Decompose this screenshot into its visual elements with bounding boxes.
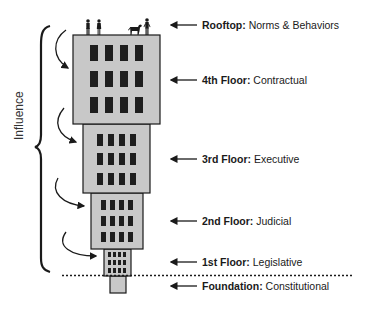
level-name: Foundation: [202, 280, 263, 292]
curved-arrow-icon [56, 178, 84, 206]
level-name: 3rd Floor: [202, 153, 251, 165]
level-desc: Executive [254, 153, 300, 165]
building-diagram [0, 0, 369, 311]
level-label-4th-floor: 4th Floor: Contractual [202, 74, 307, 86]
level-desc: Norms & Behaviors [249, 19, 339, 31]
foundation-block [110, 276, 126, 293]
curved-arrow-icon [56, 30, 68, 68]
dog-icon [128, 25, 142, 36]
person-icon [86, 19, 90, 35]
influence-brace [35, 26, 50, 272]
rooftop-figures [86, 18, 150, 35]
floor-2-judicial [91, 193, 143, 249]
floor-4-contractual [73, 35, 160, 124]
person-icon [97, 19, 101, 35]
floor-3-executive [83, 124, 150, 193]
level-desc: Contractual [253, 74, 307, 86]
level-label-foundation: Foundation: Constitutional [202, 280, 329, 292]
level-label-3rd-floor: 3rd Floor: Executive [202, 153, 299, 165]
level-desc: Judicial [256, 215, 291, 227]
level-name: 4th Floor: [202, 74, 250, 86]
influence-label: Influence [12, 91, 26, 140]
person-icon [144, 18, 151, 35]
level-label-2nd-floor: 2nd Floor: Judicial [202, 215, 291, 227]
level-name: 1st Floor: [202, 256, 250, 268]
level-desc: Legislative [253, 256, 303, 268]
level-label-rooftop: Rooftop: Norms & Behaviors [202, 19, 339, 31]
level-label-1st-floor: 1st Floor: Legislative [202, 256, 302, 268]
level-desc: Constitutional [266, 280, 330, 292]
floor-1-legislative [104, 249, 131, 276]
label-arrows [171, 25, 197, 286]
level-name: Rooftop: [202, 19, 246, 31]
level-name: 2nd Floor: [202, 215, 253, 227]
